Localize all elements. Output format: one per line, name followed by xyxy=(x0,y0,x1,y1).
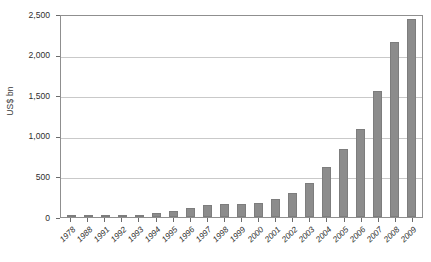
x-label-slot: 2001 xyxy=(267,223,284,259)
y-axis-tick-labels: 05001,0001,5002,0002,500 xyxy=(0,0,56,262)
bar-series xyxy=(61,16,422,217)
x-axis-tick-mark xyxy=(361,218,362,222)
x-axis-tick-mark xyxy=(292,218,293,222)
x-axis-tick-mark xyxy=(87,218,88,222)
x-axis-tick-mark xyxy=(138,218,139,222)
bar-slot xyxy=(352,16,369,217)
bar-slot xyxy=(335,16,352,217)
bar[interactable] xyxy=(135,215,145,217)
x-label-slot: 1993 xyxy=(130,223,147,259)
x-axis-tick-mark xyxy=(326,218,327,222)
bar[interactable] xyxy=(84,215,94,217)
x-label-slot: 2007 xyxy=(370,223,387,259)
x-axis-tick-labels: 1978198819911992199319941995199619971998… xyxy=(60,223,423,259)
bar-slot xyxy=(250,16,267,217)
x-axis-tick-mark xyxy=(275,218,276,222)
x-axis-tick-mark xyxy=(104,218,105,222)
y-axis-tick-label: 2,500 xyxy=(28,11,50,20)
x-axis-tick-mark xyxy=(258,218,259,222)
bar[interactable] xyxy=(220,204,230,217)
x-label-slot: 2005 xyxy=(336,223,353,259)
x-axis-tick-mark xyxy=(224,218,225,222)
plot-area xyxy=(60,15,423,218)
x-label-slot: 2004 xyxy=(318,223,335,259)
y-axis-tick-label: 1,000 xyxy=(28,132,50,141)
x-label-slot: 1996 xyxy=(182,223,199,259)
bar-slot xyxy=(386,16,403,217)
x-axis-tick-mark xyxy=(173,218,174,222)
bar-slot xyxy=(165,16,182,217)
x-label-slot: 1999 xyxy=(233,223,250,259)
bar[interactable] xyxy=(339,149,349,217)
bar[interactable] xyxy=(407,19,417,217)
x-axis-tick-mark xyxy=(412,218,413,222)
x-label-slot: 1991 xyxy=(96,223,113,259)
x-axis-tick-mark xyxy=(395,218,396,222)
bar[interactable] xyxy=(237,204,247,217)
bar[interactable] xyxy=(322,167,332,217)
x-axis-tick-mark xyxy=(190,218,191,222)
x-label-slot: 1978 xyxy=(62,223,79,259)
x-label-slot: 2000 xyxy=(250,223,267,259)
bar-chart: US$ bn 05001,0001,5002,0002,500 19781988… xyxy=(0,0,431,262)
bar[interactable] xyxy=(169,211,179,217)
bar[interactable] xyxy=(288,193,298,217)
y-axis-tick-label: 1,500 xyxy=(28,92,50,101)
x-label-slot: 1992 xyxy=(113,223,130,259)
x-label-slot: 1994 xyxy=(147,223,164,259)
bar-slot xyxy=(301,16,318,217)
x-axis-tick-mark xyxy=(309,218,310,222)
bar-slot xyxy=(369,16,386,217)
x-axis-tick-mark xyxy=(344,218,345,222)
bar[interactable] xyxy=(305,183,315,218)
bar[interactable] xyxy=(356,129,366,218)
bar-slot xyxy=(233,16,250,217)
bar[interactable] xyxy=(390,42,400,217)
bar-slot xyxy=(80,16,97,217)
y-axis-tick-label: 0 xyxy=(45,214,50,223)
x-axis-tick-mark xyxy=(378,218,379,222)
x-label-slot: 2009 xyxy=(404,223,421,259)
x-label-slot: 1995 xyxy=(165,223,182,259)
bar-slot xyxy=(182,16,199,217)
bar-slot xyxy=(199,16,216,217)
bar-slot xyxy=(63,16,80,217)
bar[interactable] xyxy=(186,208,196,217)
x-axis-tick-mark xyxy=(207,218,208,222)
bar[interactable] xyxy=(152,213,162,217)
bar-slot xyxy=(216,16,233,217)
bar[interactable] xyxy=(254,203,264,217)
x-axis-tick-mark xyxy=(121,218,122,222)
bar-slot xyxy=(131,16,148,217)
x-label-slot: 2003 xyxy=(301,223,318,259)
bar-slot xyxy=(267,16,284,217)
bar-slot xyxy=(97,16,114,217)
x-label-slot: 2006 xyxy=(353,223,370,259)
y-axis-tick-label: 2,000 xyxy=(28,51,50,60)
bar[interactable] xyxy=(271,199,281,217)
x-label-slot: 1988 xyxy=(79,223,96,259)
bar-slot xyxy=(148,16,165,217)
bar[interactable] xyxy=(373,91,383,217)
bar-slot xyxy=(318,16,335,217)
y-axis-tick-label: 500 xyxy=(36,173,50,182)
bar-slot xyxy=(284,16,301,217)
bar[interactable] xyxy=(101,215,111,217)
bar[interactable] xyxy=(67,215,77,217)
bar[interactable] xyxy=(203,205,213,217)
x-axis-tick-mark xyxy=(70,218,71,222)
bar[interactable] xyxy=(118,215,128,217)
x-axis-tick-mark xyxy=(156,218,157,222)
x-axis-tick-mark xyxy=(241,218,242,222)
bar-slot xyxy=(114,16,131,217)
x-axis-tick-label: 1978 xyxy=(58,225,77,244)
x-label-slot: 2002 xyxy=(284,223,301,259)
bar-slot xyxy=(403,16,420,217)
